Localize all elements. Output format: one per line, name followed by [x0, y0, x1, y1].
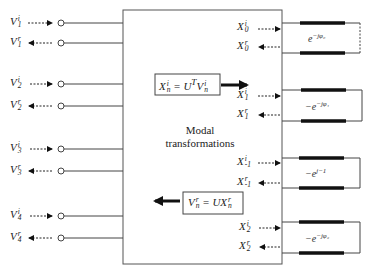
right-port-label-0-incident: Xi0 [237, 21, 248, 34]
right-port-label-2-incident: Xi2 [239, 221, 250, 234]
modal-transformations-label: Modal transformations [160, 124, 240, 150]
left-port-label-1-reflected: Vr1 [10, 36, 21, 49]
mode-1-propagation-label: −e−jφ₁ [305, 100, 329, 112]
left-port-label-3-reflected: Vr3 [10, 164, 21, 177]
left-port-label-2-incident: Vi2 [10, 77, 21, 90]
mode-minus1-propagation-label: −ej−1 [305, 167, 326, 179]
right-port-label-2-reflected: Xr2 [239, 240, 250, 253]
right-port-label-0-reflected: Xr0 [237, 40, 248, 53]
right-port-label-1-reflected: Xr1 [237, 108, 248, 121]
right-port-label-minus1-incident: Xi-1 [237, 156, 251, 169]
left-port-arrows [28, 23, 52, 238]
transmission-line-bars [299, 23, 346, 253]
left-port-label-3-incident: Vi3 [10, 142, 21, 155]
backward-equation: Vrn = UXrn [188, 196, 232, 210]
left-ports [63, 23, 123, 238]
right-port-label-1-incident: Xi1 [237, 89, 248, 102]
mode-0-propagation-label: e−jφ₀ [308, 32, 325, 44]
mode-loops [282, 23, 362, 253]
mode-2-propagation-label: −e−jφ₂ [305, 232, 329, 244]
left-port-label-1-incident: Vi1 [10, 16, 21, 29]
left-port-label-2-reflected: Vr2 [10, 99, 21, 112]
right-port-label-minus1-reflected: Xr-1 [237, 176, 251, 189]
left-port-label-4-incident: Vi4 [10, 209, 21, 222]
left-port-label-4-reflected: Vr4 [10, 231, 21, 244]
right-port-arrows [258, 29, 280, 247]
forward-equation: Xin = UTVin [159, 77, 208, 94]
left-port-terminals [58, 20, 64, 241]
